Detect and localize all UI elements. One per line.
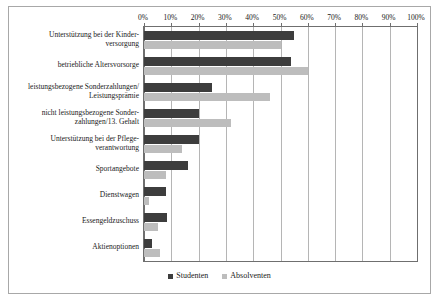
legend-label: Studenten <box>176 271 208 281</box>
bar-absolventen <box>144 67 308 76</box>
x-tick-mark <box>199 23 200 27</box>
bar-studenten <box>144 187 166 196</box>
x-tick-label: 80% <box>355 12 369 23</box>
bar-absolventen <box>144 249 160 258</box>
x-tick-mark <box>281 23 282 27</box>
x-tick-label: 70% <box>327 12 341 23</box>
plot-area <box>143 26 418 262</box>
bar-studenten <box>144 213 167 222</box>
x-axis-tick-labels: 0%10%20%30%40%50%60%70%80%90%100% <box>143 12 416 25</box>
bar-studenten <box>144 57 291 66</box>
x-tick-mark <box>226 23 227 27</box>
bar-absolventen <box>144 119 231 128</box>
chart-legend: StudentenAbsolventen <box>9 271 430 281</box>
category-label: betriebliche Altersvorsorge <box>13 60 139 69</box>
x-tick-label: 30% <box>218 12 232 23</box>
bar-studenten <box>144 161 188 170</box>
x-tick-label: 0% <box>138 12 148 23</box>
x-tick-mark <box>390 23 391 27</box>
bar-studenten <box>144 239 152 248</box>
bar-absolventen <box>144 145 182 154</box>
legend-swatch-icon <box>222 274 227 279</box>
category-label: Aktienoptionen <box>13 242 139 251</box>
legend-item-studenten: Studenten <box>168 271 208 281</box>
x-tick-label: 90% <box>382 12 396 23</box>
bar-studenten <box>144 109 199 118</box>
x-tick-label: 20% <box>191 12 205 23</box>
gridline-90pct <box>390 27 391 261</box>
category-label: nicht leistungsbezogene Sonder-zahlungen… <box>13 108 139 127</box>
gridline-70pct <box>335 27 336 261</box>
x-tick-mark <box>308 23 309 27</box>
x-tick-mark <box>362 23 363 27</box>
category-label: Sportangebote <box>13 164 139 173</box>
gridline-60pct <box>308 27 309 261</box>
legend-label: Absolventen <box>230 271 270 281</box>
x-tick-mark <box>253 23 254 27</box>
x-tick-mark <box>171 23 172 27</box>
x-tick-mark <box>144 23 145 27</box>
bar-studenten <box>144 83 212 92</box>
bar-absolventen <box>144 223 158 232</box>
bar-absolventen <box>144 93 270 102</box>
gridline-100pct <box>417 27 418 261</box>
gridline-80pct <box>362 27 363 261</box>
category-label: Dienstwagen <box>13 190 139 199</box>
x-tick-mark <box>417 23 418 27</box>
bar-absolventen <box>144 41 281 50</box>
legend-swatch-icon <box>168 274 173 279</box>
x-tick-label: 10% <box>163 12 177 23</box>
x-tick-label: 60% <box>300 12 314 23</box>
x-tick-label: 40% <box>245 12 259 23</box>
category-label: Unterstützung bei der Pflege-verantwortu… <box>13 134 139 153</box>
category-label: Essengeldzuschuss <box>13 216 139 225</box>
bar-absolventen <box>144 171 166 180</box>
bar-studenten <box>144 135 199 144</box>
x-tick-label: 100% <box>407 12 425 23</box>
x-tick-label: 50% <box>273 12 287 23</box>
bar-studenten <box>144 31 294 40</box>
x-tick-mark <box>335 23 336 27</box>
legend-item-absolventen: Absolventen <box>222 271 270 281</box>
bar-absolventen <box>144 197 149 206</box>
category-label: leistungsbezogene Sonderzahlungen/Leistu… <box>13 82 139 101</box>
chart-figure: 0%10%20%30%40%50%60%70%80%90%100% Unters… <box>8 6 431 294</box>
category-axis-labels: Unterstützung bei der Kinder-versorgungb… <box>13 26 141 260</box>
category-label: Unterstützung bei der Kinder-versorgung <box>13 30 139 49</box>
